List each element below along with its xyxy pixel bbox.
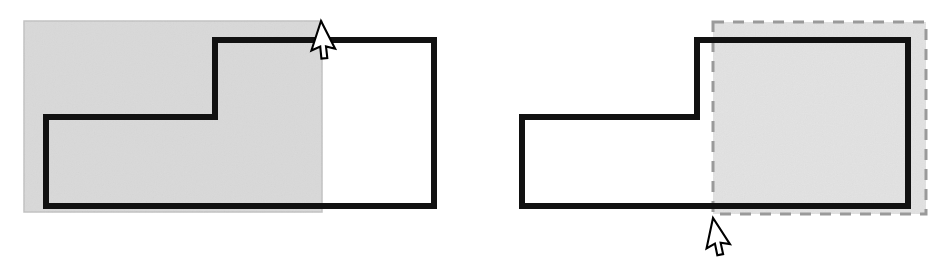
illustration-svg — [0, 0, 949, 268]
figure-canvas — [0, 0, 949, 268]
selection-rect-fill[interactable] — [713, 22, 926, 214]
panel-right — [522, 22, 926, 257]
selection-marquee-dashed[interactable] — [713, 22, 926, 214]
panel-left — [24, 21, 434, 212]
arrow-cursor-icon[interactable] — [706, 218, 735, 257]
